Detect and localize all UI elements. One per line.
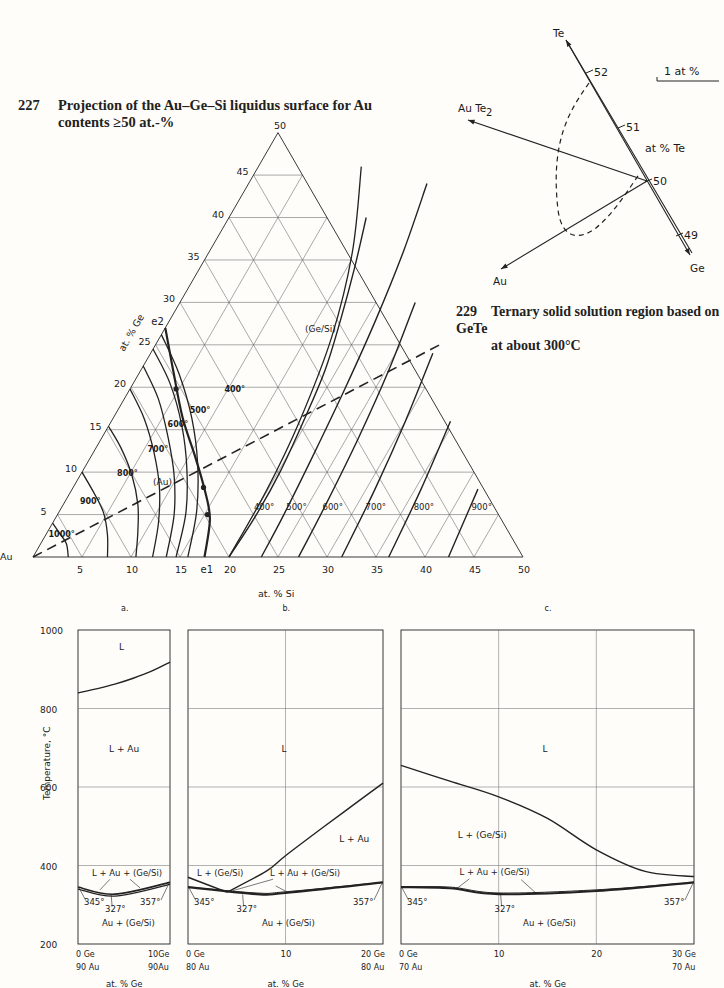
- region-label: L + Au + (Ge/Si): [270, 868, 340, 878]
- au-axis-head: [501, 264, 508, 269]
- liquidus-curve: [401, 765, 694, 876]
- si-side-isotherm: [342, 353, 433, 557]
- tick-label: 52: [594, 66, 608, 79]
- x-left-label: 80 Au: [186, 963, 209, 972]
- y-tick-label: 800: [40, 705, 57, 715]
- region-label: L: [282, 744, 287, 754]
- si-tick-label: 35: [371, 564, 383, 575]
- region-label-au: (Au): [153, 477, 172, 487]
- section-panel-a: a.0 Ge90 Au10Ge90Auat. % GeLL + AuL + Au…: [76, 604, 170, 988]
- region-label: L + Au + (Ge/Si): [92, 868, 162, 878]
- au-isotherm-label: 1000°: [49, 530, 75, 539]
- eutectic-valley: [165, 328, 210, 557]
- region-label: L + (Ge/Si): [197, 868, 243, 878]
- region-label: L + Au: [339, 834, 369, 844]
- si-isotherm-label: 800°: [414, 502, 434, 512]
- si-tick-label: 50: [518, 564, 530, 575]
- region-label: L + (Ge/Si): [458, 830, 507, 840]
- x-tick-label: 10: [494, 949, 505, 959]
- isotherms: [53, 167, 478, 557]
- section-panel-c: 1020c.0 Ge70 Au30 Ge70 Auat. % GeLL + (G…: [399, 604, 696, 988]
- si-side-isotherm: [449, 489, 478, 557]
- eutectic-temp-357: 357°: [353, 897, 373, 907]
- eutectic-temp-327: 327°: [237, 904, 257, 914]
- x-right-label: 30 Ge: [672, 950, 696, 959]
- si-isotherm-label: 400°: [254, 502, 274, 512]
- eutectic-temp-345: 345°: [84, 897, 104, 907]
- si-side-isotherm: [261, 184, 427, 557]
- panel-label: a.: [121, 604, 128, 613]
- si-tick-label: 25: [273, 564, 285, 575]
- eutectic-temp-345: 345°: [194, 897, 214, 907]
- x-axis-label: at. % Ge: [530, 979, 567, 988]
- te-label: Te: [552, 27, 564, 39]
- ternary-diagram-227: 51015202530354045505101520253035404550Au…: [0, 120, 530, 599]
- tick-label: 51: [626, 121, 640, 134]
- eutectic-temp-327: 327°: [495, 904, 515, 914]
- eutectic-temp-327: 327°: [105, 904, 125, 914]
- section-panel-b: 10b.0 Ge80 Au20 Ge80 Auat. % GeLL + AuL …: [186, 604, 385, 988]
- x-right-label: 90Au: [148, 963, 169, 972]
- x-left-label: 0 Ge: [186, 950, 205, 959]
- au-isotherm-label: 400°: [224, 385, 245, 394]
- si-tick-label: 10: [126, 564, 138, 575]
- y-tick-label: 200: [40, 940, 57, 950]
- ge-tick-label: 20: [114, 378, 126, 389]
- x-right-label: 10Ge: [148, 950, 169, 959]
- scale-label: 1 at %: [664, 65, 700, 78]
- aute2-axis: [468, 120, 647, 181]
- axis-tick: [618, 125, 625, 128]
- gete-solid-solution-diagram-229: 52515049TeGeAu Te2Auat % Te1 at %: [458, 27, 719, 287]
- si-side-isotherm: [389, 421, 451, 557]
- si-isotherm-label: 900°: [471, 502, 491, 512]
- aute2-subscript: 2: [486, 107, 492, 118]
- x-left-label: 0 Ge: [76, 950, 95, 959]
- si-tick-label: 20: [224, 564, 236, 575]
- au-isotherm-label: 900°: [80, 497, 101, 506]
- tick-label: 49: [684, 229, 698, 242]
- au-isotherm-label: 600°: [168, 420, 189, 429]
- au-side-isotherm: [143, 366, 175, 557]
- si-axis-label: at. % Si: [258, 588, 294, 599]
- liquidus-curve: [78, 662, 170, 693]
- axis-tick: [586, 70, 593, 73]
- si-tick-label: 5: [77, 564, 83, 575]
- eutectic-temp-345: 345°: [407, 897, 427, 907]
- region-label: L + Au: [109, 744, 139, 754]
- aute2-label: Au Te: [458, 102, 486, 114]
- region-label-gesi: (Ge/Si): [305, 324, 336, 334]
- si-isotherm-label: 500°: [286, 502, 306, 512]
- panel-label: b.: [283, 604, 291, 613]
- region-label: L: [543, 744, 548, 754]
- x-right-label: 20 Ge: [361, 950, 385, 959]
- x-left-label: 90 Au: [76, 963, 99, 972]
- si-isotherm-label: 600°: [322, 502, 342, 512]
- x-tick-label: 20: [591, 949, 602, 959]
- si-tick-label: 40: [420, 564, 432, 575]
- panel-label: c.: [545, 604, 552, 613]
- region-label: Au + (Ge/Si): [523, 918, 576, 928]
- x-axis-label: at. % Ge: [268, 979, 305, 988]
- eutectic-temp-357: 357°: [664, 897, 684, 907]
- ge-tick-label: 40: [212, 209, 224, 220]
- eutectic-e2-label: e2: [151, 316, 164, 327]
- ge-tick-label: 30: [163, 293, 175, 304]
- au-isotherm-label: 800°: [117, 469, 138, 478]
- y-tick-label: 400: [40, 862, 57, 872]
- region-label: Au + (Ge/Si): [102, 918, 155, 928]
- ge-tick-label: 25: [139, 336, 151, 347]
- ge-tick-label: 45: [237, 166, 249, 177]
- valley-marker: [205, 512, 210, 517]
- aute2-axis-head: [468, 120, 475, 125]
- au-isotherm-label: 500°: [190, 406, 211, 415]
- x-tick-label: 10: [281, 949, 292, 959]
- si-isotherm-label: 700°: [366, 502, 386, 512]
- valley-marker: [173, 386, 178, 391]
- eutectic-e1-label: e1: [201, 564, 214, 575]
- au-corner-label: Au: [0, 551, 13, 562]
- au-isotherm-label: 700°: [148, 445, 169, 454]
- region-label: Au + (Ge/Si): [262, 918, 315, 928]
- x-left-label: 70 Au: [399, 963, 422, 972]
- ternary-grid: [58, 175, 499, 557]
